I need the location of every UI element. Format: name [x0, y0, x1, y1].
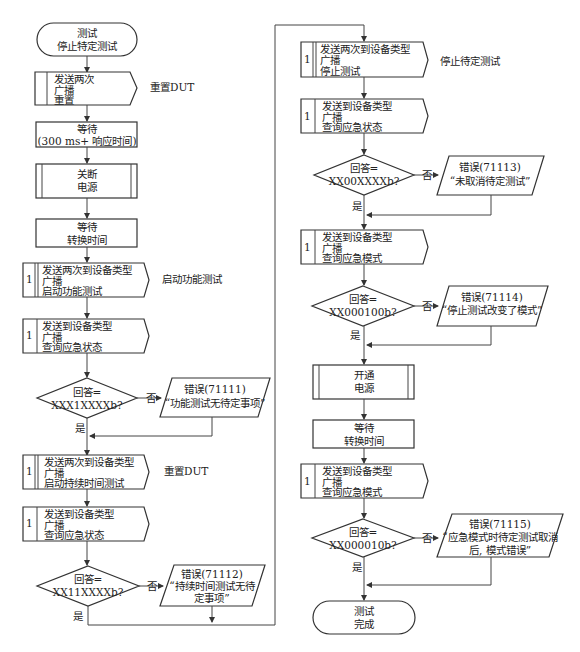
svg-text:1: 1 [304, 241, 311, 253]
svg-text:“功能测试无待定事项”: “功能测试无待定事项” [165, 397, 266, 409]
svg-text:1: 1 [26, 273, 33, 285]
svg-text:XX000010b?: XX000010b? [329, 539, 397, 551]
no-label-2: 否 [147, 580, 158, 592]
svg-text:回答=: 回答= [73, 386, 102, 398]
svg-text:等待: 等待 [77, 123, 98, 135]
svg-text:查询应急模式: 查询应急模式 [322, 252, 383, 264]
start-terminator: 测试 停止特定测试 [37, 23, 137, 56]
svg-text:测试: 测试 [354, 605, 375, 617]
svg-text:“未取消待定测试”: “未取消待定测试” [450, 175, 531, 187]
svg-text:1: 1 [26, 465, 33, 477]
svg-text:1: 1 [26, 329, 33, 341]
svg-text:“持续时间测试无待: “持续时间测试无待 [169, 580, 255, 592]
svg-text:转换时间: 转换时间 [67, 234, 107, 246]
no-label-4: 否 [422, 300, 433, 312]
svg-text:错误(71114): 错误(71114) [461, 291, 523, 303]
note-stop-pending-test: 停止待定测试 [440, 55, 501, 67]
svg-text:定事项”: 定事项” [194, 592, 229, 604]
svg-text:1: 1 [304, 475, 311, 487]
start-duration-test-box: 1 发送两次到设备类型 广播 启动持续时间测试 [23, 455, 149, 489]
svg-text:错误(71115): 错误(71115) [469, 518, 531, 530]
svg-text:“应急模式时待定测试取消: “应急模式时待定测试取消 [442, 531, 557, 543]
svg-text:错误(71111): 错误(71111) [184, 383, 246, 395]
query-status-box-2: 1 发送到设备类型 广播 查询应急状态 [23, 507, 149, 541]
svg-text:回答=: 回答= [349, 526, 378, 538]
svg-text:回答=: 回答= [74, 573, 103, 585]
yes-label-1: 是 [75, 422, 86, 434]
svg-text:停止特定测试: 停止特定测试 [57, 40, 118, 52]
svg-text:XX00XXXXb?: XX00XXXXb? [329, 175, 400, 187]
power-on-box: 开通 电源 [313, 365, 414, 399]
decision-5: 回答= XX000010b? [312, 519, 414, 557]
query-mode-box-1: 1 发送到设备类型 广播 查询应急模式 [301, 230, 428, 264]
decision-3: 回答= XX00XXXXb? [314, 155, 414, 195]
svg-text:XX000100b?: XX000100b? [329, 306, 397, 318]
yes-label-5: 是 [352, 561, 363, 573]
svg-text:查询应急状态: 查询应急状态 [42, 341, 103, 353]
svg-text:停止测试: 停止测试 [320, 65, 361, 77]
no-label-1: 否 [146, 392, 157, 404]
note-start-function-test: 启动功能测试 [162, 273, 223, 285]
end-terminator: 测试 完成 [313, 601, 415, 634]
query-mode-box-2: 1 发送到设备类型 广播 查询应急模式 [301, 464, 428, 498]
error-71115: 错误(71115) “应急模式时待定测试取消 后, 模式错误” [437, 514, 563, 557]
svg-text:查询应急状态: 查询应急状态 [44, 529, 105, 541]
query-status-box-1: 1 发送到设备类型 广播 查询应急状态 [23, 319, 149, 353]
query-status-box-3: 1 发送到设备类型 广播 查询应急状态 [301, 99, 428, 133]
svg-text:启动持续时间测试: 启动持续时间测试 [44, 477, 125, 489]
start-function-test-box: 1 发送两次到设备类型 广播 启动功能测试 [23, 263, 149, 297]
svg-text:转换时间: 转换时间 [344, 435, 384, 447]
error-71111: 错误(71111) “功能测试无待定事项” [160, 378, 270, 417]
svg-text:重置: 重置 [54, 94, 74, 106]
decision-4: 回答= XX000100b? [312, 286, 414, 326]
svg-text:开通: 开通 [354, 369, 375, 381]
power-off-box: 关断 电源 [36, 164, 137, 198]
decision-1: 回答= XXX1XXXXb? [37, 378, 137, 418]
svg-text:1: 1 [304, 110, 311, 122]
svg-text:错误(71112): 错误(71112) [181, 568, 243, 580]
svg-text:启动功能测试: 启动功能测试 [42, 285, 103, 297]
wait-switch-time-box: 等待 转换时间 [36, 219, 137, 247]
yes-label-4: 是 [350, 329, 361, 341]
svg-text:1: 1 [304, 53, 311, 65]
svg-text:完成: 完成 [354, 618, 375, 630]
stop-test-box: 1 发送两次到设备类型 广播 停止测试 [301, 42, 428, 77]
svg-text:1: 1 [26, 517, 33, 529]
svg-text:查询应急状态: 查询应急状态 [322, 121, 383, 133]
svg-text:电源: 电源 [354, 382, 375, 394]
svg-text:后, 模式错误”: 后, 模式错误” [469, 544, 531, 556]
yes-label-2: 是 [73, 610, 84, 622]
wait-switch-time-box-2: 等待 转换时间 [313, 420, 414, 448]
svg-text:XXX1XXXXb?: XXX1XXXXb? [51, 399, 123, 411]
wait-300ms-box: 等待 (300 ms+ 响应时间) [36, 122, 137, 147]
svg-text:等待: 等待 [354, 422, 375, 434]
svg-text:关断: 关断 [77, 168, 98, 180]
send-reset-box: 发送两次 广播 重置 [35, 72, 137, 106]
svg-text:“停止测试改变了模式”: “停止测试改变了模式” [442, 304, 543, 316]
note-reset-dut-2: 重置DUT [164, 465, 208, 477]
svg-text:查询应急模式: 查询应急模式 [322, 486, 383, 498]
svg-text:回答=: 回答= [350, 162, 379, 174]
no-label-3: 否 [422, 169, 433, 181]
svg-text:(300 ms+ 响应时间): (300 ms+ 响应时间) [37, 135, 136, 147]
svg-text:等待: 等待 [77, 221, 98, 233]
flowchart: 测试 停止特定测试 发送两次 广播 重置 重置DUT 等待 (300 ms+ 响… [0, 0, 580, 652]
decision-2: 回答= XX11XXXXb? [37, 566, 139, 606]
no-label-5: 否 [422, 532, 433, 544]
svg-text:XX11XXXXb?: XX11XXXXb? [53, 586, 124, 598]
svg-text:电源: 电源 [77, 181, 98, 193]
note-reset-dut: 重置DUT [150, 81, 194, 93]
error-71112: 错误(71112) “持续时间测试无待 定事项” [160, 565, 265, 606]
error-71113: 错误(71113) “未取消待定测试” [437, 156, 544, 195]
svg-text:测试: 测试 [77, 27, 98, 39]
yes-label-3: 是 [352, 200, 363, 212]
svg-text:错误(71113): 错误(71113) [459, 161, 521, 173]
error-71114: 错误(71114) “停止测试改变了模式” [437, 286, 548, 326]
svg-text:回答=: 回答= [349, 293, 378, 305]
